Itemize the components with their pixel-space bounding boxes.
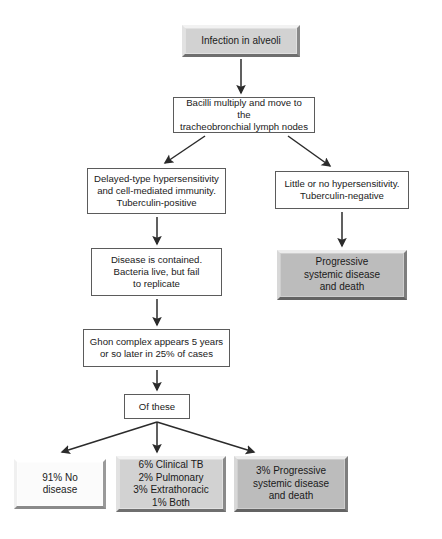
node-of-these[interactable]: Of these [124, 394, 190, 419]
node-of-these-label: Of these [139, 401, 175, 413]
node-progressive-systemic-disease-and-death[interactable]: Progressive systemic disease and death [277, 250, 407, 300]
node-91-percent-no-disease-label: 91% No disease [42, 472, 78, 497]
node-bacilli-multiply[interactable]: Bacilli multiply and move to the tracheo… [173, 97, 315, 133]
arrow-bacilli-to-delayed [165, 136, 205, 163]
node-infection-in-alveoli[interactable]: Infection in alveoli [182, 25, 300, 57]
node-little-or-no-hypersensitivity-label: Little or no hypersensitivity. Tuberculi… [285, 178, 400, 202]
node-91-percent-no-disease[interactable]: 91% No disease [14, 459, 106, 509]
node-disease-is-contained-label: Disease is contained. Bacteria live, but… [111, 254, 202, 290]
node-3-percent-progressive-systemic-disease-label: 3% Progressive systemic disease and deat… [253, 465, 329, 503]
node-progressive-systemic-disease-and-death-label: Progressive systemic disease and death [304, 256, 380, 294]
flowchart-canvas: Infection in alveoli Bacilli multiply an… [0, 0, 442, 539]
node-clinical-tb-breakdown-label: 6% Clinical TB 2% Pulmonary 3% Extrathor… [133, 459, 209, 509]
node-clinical-tb-breakdown[interactable]: 6% Clinical TB 2% Pulmonary 3% Extrathor… [116, 456, 226, 512]
node-disease-is-contained[interactable]: Disease is contained. Bacteria live, but… [91, 248, 222, 296]
node-ghon-complex[interactable]: Ghon complex appears 5 years or so later… [83, 329, 230, 367]
node-delayed-type-hypersensitivity-label: Delayed-type hypersensitivity and cell-m… [94, 173, 219, 209]
node-3-percent-progressive-systemic-disease[interactable]: 3% Progressive systemic disease and deat… [234, 456, 348, 512]
node-ghon-complex-label: Ghon complex appears 5 years or so later… [90, 336, 223, 360]
node-delayed-type-hypersensitivity[interactable]: Delayed-type hypersensitivity and cell-m… [87, 168, 226, 214]
arrow-ofthese-to-nodisease [62, 422, 157, 452]
node-infection-in-alveoli-label: Infection in alveoli [201, 35, 281, 48]
node-bacilli-multiply-label: Bacilli multiply and move to the tracheo… [179, 97, 309, 133]
arrow-bacilli-to-little [288, 136, 330, 166]
node-little-or-no-hypersensitivity[interactable]: Little or no hypersensitivity. Tuberculi… [275, 171, 409, 209]
arrow-ofthese-to-progressive2 [157, 422, 254, 452]
